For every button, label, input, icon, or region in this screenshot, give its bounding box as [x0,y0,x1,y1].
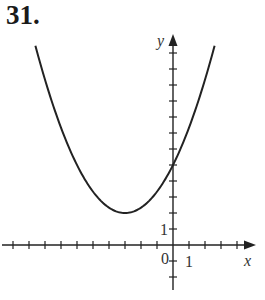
y-tick-label-1: 1 [160,221,168,238]
x-tick-label-1: 1 [185,253,193,270]
parabola-curve [35,46,214,213]
y-axis-label: y [155,32,165,50]
x-axis-arrow-icon [244,241,256,250]
parabola-graph: y x 0 1 1 [0,0,265,300]
origin-label: 0 [161,250,169,267]
y-axis-arrow-icon [169,34,178,46]
x-axis-label: x [243,252,251,269]
